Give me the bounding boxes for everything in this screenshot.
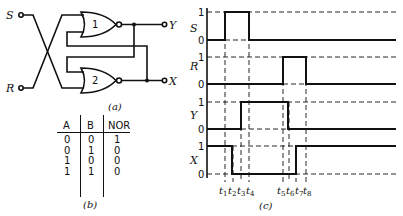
waveform-y bbox=[207, 102, 396, 129]
svg-text:t8: t8 bbox=[303, 185, 312, 198]
timing-diagram: 1 S 0 1 R 0 1 Y 0 1 X 0 bbox=[189, 7, 396, 211]
svg-text:0: 0 bbox=[114, 166, 120, 177]
input-s-label: S bbox=[6, 9, 14, 22]
svg-text:1: 1 bbox=[198, 52, 204, 63]
svg-text:0: 0 bbox=[198, 124, 204, 135]
svg-text:1: 1 bbox=[64, 155, 70, 166]
svg-text:0: 0 bbox=[88, 134, 94, 145]
gate-2-label: 2 bbox=[92, 75, 98, 86]
input-s-terminal bbox=[19, 13, 23, 17]
signal-s-label: S bbox=[190, 22, 198, 35]
output-x-label: X bbox=[168, 75, 178, 88]
waveform-r bbox=[207, 57, 396, 84]
svg-text:t1: t1 bbox=[219, 185, 228, 198]
caption-a: (a) bbox=[108, 101, 122, 112]
caption-b: (b) bbox=[83, 199, 97, 210]
time-labels: t1 t2 t3 t4 t5 t6 t7 t8 bbox=[219, 185, 312, 198]
svg-text:1: 1 bbox=[64, 166, 70, 177]
output-y-terminal bbox=[162, 22, 166, 26]
svg-text:0: 0 bbox=[64, 134, 70, 145]
svg-text:0: 0 bbox=[198, 35, 204, 46]
svg-text:0: 0 bbox=[198, 169, 204, 180]
waveform-x bbox=[207, 146, 396, 174]
svg-text:1: 1 bbox=[88, 166, 94, 177]
svg-text:t3: t3 bbox=[237, 185, 246, 198]
svg-text:t5: t5 bbox=[277, 185, 286, 198]
nor-gate-2 bbox=[81, 68, 116, 93]
header-b: B bbox=[87, 120, 94, 131]
svg-text:t4: t4 bbox=[246, 185, 255, 198]
input-r-terminal bbox=[19, 86, 23, 90]
inversion-bubble-1 bbox=[117, 22, 122, 27]
svg-text:0: 0 bbox=[198, 79, 204, 90]
output-x-terminal bbox=[162, 78, 166, 82]
input-r-label: R bbox=[5, 82, 14, 95]
svg-text:1: 1 bbox=[114, 134, 120, 145]
svg-text:1: 1 bbox=[198, 97, 204, 108]
circuit-diagram: S R 1 2 Y X (a) bbox=[5, 9, 178, 112]
signal-r-label: R bbox=[189, 60, 198, 73]
table-row: 0 0 1 bbox=[64, 134, 120, 145]
wire-r bbox=[23, 15, 84, 88]
svg-text:t6: t6 bbox=[286, 185, 295, 198]
svg-text:1: 1 bbox=[198, 141, 204, 152]
svg-text:0: 0 bbox=[88, 155, 94, 166]
caption-c: (c) bbox=[259, 200, 273, 211]
output-y-label: Y bbox=[169, 19, 178, 32]
header-nor: NOR bbox=[108, 120, 130, 131]
svg-text:1: 1 bbox=[198, 7, 204, 18]
table-row: 1 1 0 bbox=[64, 166, 120, 177]
svg-text:0: 0 bbox=[114, 155, 120, 166]
nor-gate-1 bbox=[81, 12, 116, 37]
gate-1-label: 1 bbox=[92, 19, 98, 30]
svg-text:t2: t2 bbox=[228, 185, 237, 198]
waveform-s bbox=[207, 12, 396, 40]
header-a: A bbox=[63, 120, 70, 131]
truth-table: A B NOR 0 0 1 0 1 0 1 0 0 1 1 0 (b) bbox=[57, 115, 130, 210]
signal-x-label: X bbox=[189, 154, 199, 167]
inversion-bubble-2 bbox=[117, 78, 122, 83]
wire-s bbox=[23, 15, 84, 88]
signal-y-label: Y bbox=[190, 109, 199, 122]
table-row: 1 0 0 bbox=[64, 155, 120, 166]
sr-latch-figure: S R 1 2 Y X (a) A B NOR bbox=[0, 0, 403, 216]
